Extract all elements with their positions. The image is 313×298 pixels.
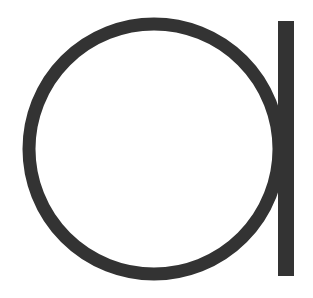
glyph-stem [278,21,294,276]
glyph-canvas: a [0,0,313,298]
letter-a-glyph [0,0,313,298]
glyph-bowl [29,24,279,274]
